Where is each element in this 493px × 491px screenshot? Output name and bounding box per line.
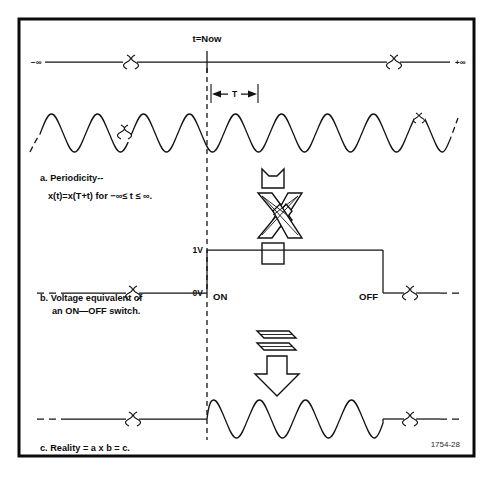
panel-a-caption-line1: a. Periodicity--: [40, 173, 103, 183]
level-0v-label: 0V: [193, 288, 204, 298]
periodicity-waveform: [30, 111, 458, 152]
period-label: T: [232, 89, 238, 99]
state-off-label: OFF: [359, 291, 378, 302]
period-arrow-left-icon: [212, 91, 221, 98]
timeline-axis: [45, 51, 450, 73]
minus-infinity-label: −∞: [31, 58, 42, 67]
plain-block-icon: [262, 243, 284, 264]
panel-b-caption-line2: an ON—OFF switch.: [52, 306, 140, 316]
t-now-label: t=Now: [193, 33, 222, 44]
equals-operator-group: [257, 331, 296, 350]
x-multiply-icon: [258, 193, 302, 238]
reality-waveform: [37, 400, 462, 438]
panel-b-caption-line1: b. Voltage equivalent of: [40, 293, 143, 303]
panel-a-caption-line2: x(t)=x(T+t) for −∞≤ t ≤ ∞.: [48, 191, 152, 201]
figure-number: 1754-28: [431, 440, 461, 449]
axis-break-left-icon: [124, 55, 131, 69]
level-1v-label: 1V: [193, 245, 204, 255]
panel-c-caption: c. Reality = a x b = c.: [40, 443, 130, 453]
figure-container: −∞ +∞ t=Now T: [0, 0, 493, 491]
notched-block-icon: [262, 169, 284, 188]
result-down-arrow-icon: [255, 356, 299, 396]
state-on-label: ON: [213, 291, 227, 302]
figure-border: [19, 19, 474, 456]
reality-break-left-icon: [126, 412, 133, 426]
axis-break-right-icon: [387, 55, 394, 69]
period-arrow-right-icon: [248, 91, 257, 98]
figure-canvas: −∞ +∞ t=Now T: [0, 0, 493, 491]
plus-infinity-label: +∞: [455, 58, 466, 67]
